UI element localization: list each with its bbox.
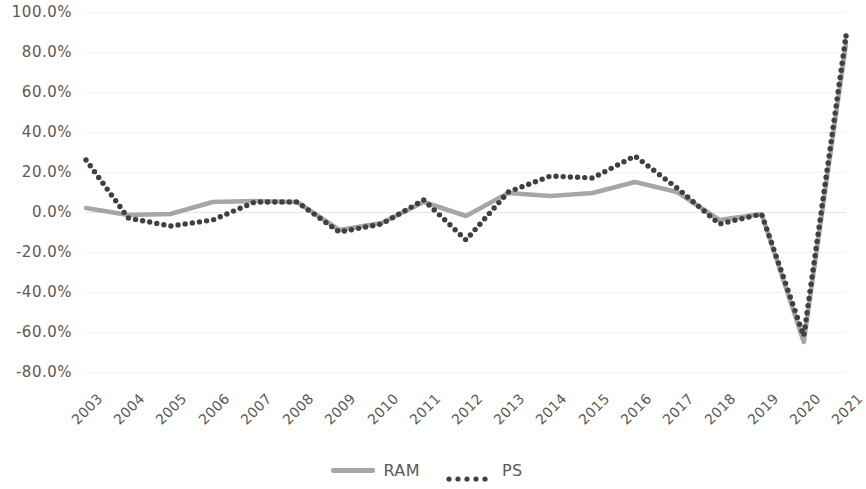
y-tick-label: 100.0% xyxy=(12,3,72,21)
x-tick-label: 2009 xyxy=(322,390,359,427)
y-axis: 100.0%80.0%60.0%40.0%20.0%0.0%-20.0%-40.… xyxy=(0,0,78,380)
legend-label-ps: PS xyxy=(502,461,523,480)
y-tick-label: 60.0% xyxy=(22,83,72,101)
x-tick-label: 2003 xyxy=(68,390,105,427)
x-tick-label: 2011 xyxy=(406,390,443,427)
x-axis: 2003200420052006200720082009201020112012… xyxy=(86,376,846,446)
legend-item-ram[interactable]: RAM xyxy=(331,461,419,480)
x-tick-label: 2016 xyxy=(617,390,654,427)
y-tick-label: 0.0% xyxy=(32,203,72,221)
dotted-line-swatch-icon xyxy=(446,467,494,473)
plot-area xyxy=(86,12,846,372)
legend-label-ram: RAM xyxy=(383,461,419,480)
x-tick-label: 2019 xyxy=(744,390,781,427)
x-tick-label: 2012 xyxy=(448,390,485,427)
y-tick-label: -80.0% xyxy=(16,363,72,381)
y-tick-label: -40.0% xyxy=(16,283,72,301)
y-tick-label: 20.0% xyxy=(22,163,72,181)
solid-line-swatch-icon xyxy=(331,468,375,473)
x-tick-label: 2018 xyxy=(702,390,739,427)
x-tick-label: 2006 xyxy=(195,390,232,427)
x-tick-label: 2007 xyxy=(237,390,274,427)
gridline xyxy=(86,372,846,373)
series-ps xyxy=(83,33,848,337)
x-tick-label: 2010 xyxy=(364,390,401,427)
y-tick-label: -20.0% xyxy=(16,243,72,261)
y-tick-label: 80.0% xyxy=(22,43,72,61)
x-tick-label: 2013 xyxy=(491,390,528,427)
y-tick-label: 40.0% xyxy=(22,123,72,141)
x-tick-label: 2004 xyxy=(111,390,148,427)
x-tick-label: 2008 xyxy=(279,390,316,427)
series-layer xyxy=(86,12,846,372)
chart-legend: RAM PS xyxy=(0,456,854,484)
legend-item-ps[interactable]: PS xyxy=(446,461,523,480)
x-tick-label: 2020 xyxy=(786,390,823,427)
series-ram xyxy=(86,44,846,342)
x-tick-label: 2014 xyxy=(533,390,570,427)
x-tick-label: 2005 xyxy=(153,390,190,427)
y-tick-label: -60.0% xyxy=(16,323,72,341)
x-tick-label: 2017 xyxy=(659,390,696,427)
x-tick-label: 2021 xyxy=(828,390,865,427)
x-tick-label: 2015 xyxy=(575,390,612,427)
